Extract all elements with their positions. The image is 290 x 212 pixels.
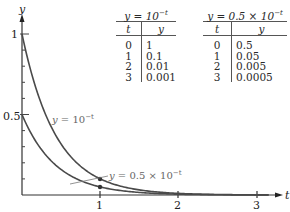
- x-axis-arrow-icon: [275, 193, 283, 198]
- y-axis-label: y: [18, 3, 26, 16]
- curve-half-10-pow-neg-t: [22, 115, 269, 195]
- table1-title: y = 10−t: [116, 5, 176, 21]
- table-row: 3 0.001: [116, 72, 176, 83]
- table-row: 0 1: [116, 36, 176, 51]
- table-row: 0 0.5: [203, 36, 287, 51]
- table2-header-y: y: [232, 22, 288, 36]
- curve2-label: y = 0.5 × 10−t: [108, 169, 182, 181]
- table1-header-y: y: [141, 22, 176, 36]
- table1-header-t: t: [116, 22, 141, 36]
- table-10-pow-neg-t: y = 10−t t y 0 1 1 0.1 2 0.01 3 0.001: [116, 5, 176, 82]
- table2-title: y = 0.5 × 10−t: [203, 5, 287, 21]
- x-axis-label: t: [285, 189, 290, 202]
- table-row: 3 0.0005: [203, 72, 287, 83]
- table-row: 2 0.005: [203, 61, 287, 72]
- table-row: 2 0.01: [116, 61, 176, 72]
- point-t1-y0-05: [98, 185, 102, 189]
- table2-header-t: t: [203, 22, 232, 36]
- x-tick-label-2: 2: [174, 199, 181, 212]
- x-tick-label-1: 1: [96, 199, 103, 212]
- y-tick-label-0-5: 0.5: [3, 110, 21, 123]
- curve1-label: y = 10−t: [51, 113, 94, 125]
- y-tick-label-1: 1: [11, 28, 18, 41]
- table-half-10-pow-neg-t: y = 0.5 × 10−t t y 0 0.5 1 0.05 2 0.005 …: [203, 5, 287, 82]
- x-tick-label-3: 3: [253, 199, 260, 212]
